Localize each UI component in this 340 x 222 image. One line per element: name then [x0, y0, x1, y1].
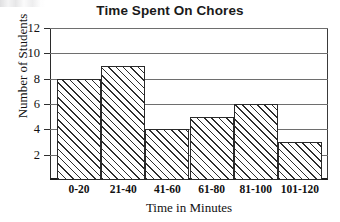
y-tick-label: 4: [18, 122, 40, 137]
plot-area: [50, 28, 328, 180]
y-tick-label: 8: [18, 72, 40, 87]
y-tick-mark: [44, 155, 50, 156]
gridline: [50, 28, 328, 29]
y-tick-mark: [44, 53, 50, 54]
y-tick-label: 12: [18, 21, 40, 36]
bar: [278, 142, 322, 180]
y-tick-mark: [44, 28, 50, 29]
x-axis-label: Time in Minutes: [50, 200, 328, 216]
y-tick-mark: [44, 79, 50, 80]
y-tick-mark: [44, 129, 50, 130]
bar: [101, 66, 145, 180]
bar: [234, 104, 278, 180]
chart-title: Time Spent On Chores: [0, 3, 340, 18]
y-tick-label: 10: [18, 46, 40, 61]
bar: [190, 117, 234, 180]
x-tick-label: 101-120: [268, 183, 332, 195]
y-tick-label: 6: [18, 97, 40, 112]
gridline: [50, 53, 328, 54]
y-tick-label: 2: [18, 148, 40, 163]
y-tick-mark: [44, 104, 50, 105]
bar: [57, 79, 101, 180]
bar: [145, 129, 189, 180]
